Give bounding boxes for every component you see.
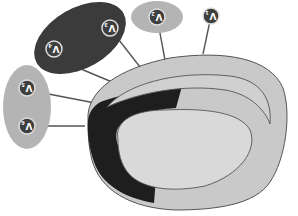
label-v4: V <box>52 44 59 54</box>
label-v2: V <box>155 12 162 22</box>
badge-v2: V 2 <box>149 9 165 25</box>
label-v6: V <box>25 121 32 131</box>
badge-v6: V 6 <box>19 118 35 134</box>
label-v4-sub: 4 <box>48 43 52 49</box>
light-ellipse-left <box>3 65 51 149</box>
badge-v5: V 5 <box>19 80 35 96</box>
label-v3: V <box>108 23 115 33</box>
label-v2-sub: 2 <box>151 11 155 17</box>
cortex-diagram: V 1 V 2 V 3 V 4 V 5 V 6 <box>0 0 298 216</box>
label-v1-sub: 1 <box>205 10 209 16</box>
label-v5-sub: 5 <box>21 82 25 88</box>
badge-v4: V 4 <box>46 41 62 57</box>
label-v1: V <box>209 11 216 21</box>
badge-v1: V 1 <box>203 8 219 24</box>
label-v3-sub: 3 <box>104 22 108 28</box>
label-v5: V <box>25 83 32 93</box>
badge-v3: V 3 <box>102 20 118 36</box>
label-v6-sub: 6 <box>21 120 25 126</box>
